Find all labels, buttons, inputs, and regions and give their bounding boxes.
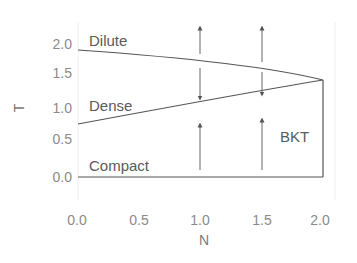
phase-diagram: 2.0 1.5 1.0 0.5 0.0 T 0.0 0.5 1.0 1.5 2.… (0, 0, 357, 263)
region-label-dilute: Dilute (89, 32, 127, 49)
region-label-dense: Dense (89, 97, 132, 114)
x-tick: 1.5 (252, 212, 272, 228)
y-tick: 1.0 (53, 100, 73, 116)
x-tick: 1.0 (190, 212, 210, 228)
x-tick: 0.5 (129, 212, 149, 228)
x-tick: 0.0 (67, 212, 87, 228)
region-label-compact: Compact (89, 157, 150, 174)
y-tick: 1.5 (53, 65, 73, 81)
y-tick: 2.0 (53, 36, 73, 52)
y-tick: 0.5 (53, 131, 73, 147)
y-axis-label: T (11, 103, 27, 112)
y-tick: 0.0 (53, 169, 73, 185)
x-tick: 2.0 (310, 212, 330, 228)
x-axis-label: N (199, 232, 209, 248)
region-label-bkt: BKT (280, 128, 309, 145)
